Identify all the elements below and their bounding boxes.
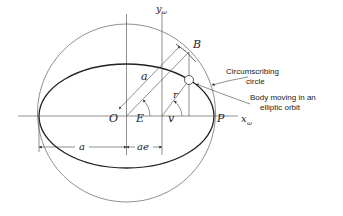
x-axis-subscript: ω	[247, 119, 252, 126]
eccentric-anomaly-label: E	[135, 112, 144, 125]
center-to-b-line	[127, 52, 190, 116]
body-leader	[196, 84, 250, 104]
periapsis-p-label: P	[216, 112, 225, 125]
semi-major-lower-label: a	[79, 141, 85, 152]
body-annotation-line1: Body moving in an	[250, 93, 316, 102]
angle-e-arc	[143, 100, 150, 116]
circle-annotation-line2: circle	[246, 77, 265, 86]
angle-v-arc	[174, 101, 182, 116]
body-annotation-line2: elliptic orbit	[260, 103, 301, 112]
y-axis-subscript: ω	[162, 8, 167, 15]
orbit-diagram: y ω B O P E v r a x ω a ae Circumscribin…	[0, 0, 343, 216]
orbiting-body	[185, 76, 194, 85]
focal-offset-label: ae	[137, 141, 149, 152]
circle-leader	[212, 77, 248, 85]
y-axis-label: y	[155, 3, 162, 14]
true-anomaly-label: v	[168, 112, 175, 125]
a-dimension-line	[119, 46, 180, 109]
circle-annotation-line1: Circumscribing	[226, 67, 279, 76]
center-o-label: O	[109, 112, 118, 125]
semi-major-upper-label: a	[141, 70, 148, 83]
point-b-label: B	[192, 38, 201, 51]
